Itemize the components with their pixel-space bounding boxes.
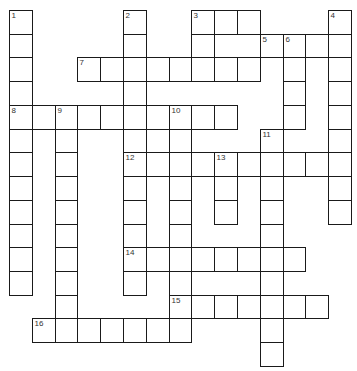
grid-cell[interactable] [214,10,238,35]
grid-cell[interactable]: 11 [260,129,284,153]
grid-cell[interactable] [328,176,352,201]
grid-cell[interactable] [260,224,284,248]
grid-cell[interactable] [260,295,284,319]
grid-cell[interactable] [260,200,284,225]
grid-cell[interactable]: 12 [123,152,147,177]
grid-cell[interactable] [237,10,261,35]
grid-cell[interactable] [9,57,33,82]
grid-cell[interactable]: 14 [123,247,147,272]
grid-cell[interactable] [328,152,352,177]
grid-cell[interactable]: 2 [123,10,147,35]
grid-cell[interactable] [9,34,33,58]
grid-cell[interactable]: 9 [55,105,78,130]
grid-cell[interactable] [283,81,306,106]
grid-cell[interactable] [100,105,124,130]
grid-cell[interactable] [55,200,78,225]
grid-cell[interactable] [146,152,170,177]
grid-cell[interactable]: 3 [191,10,215,35]
grid-cell[interactable] [123,318,147,343]
grid-cell[interactable] [305,34,329,58]
grid-cell[interactable] [260,176,284,201]
grid-cell[interactable] [123,176,147,201]
grid-cell[interactable]: 4 [328,10,352,35]
grid-cell[interactable] [9,176,33,201]
grid-cell[interactable] [260,342,284,367]
grid-cell[interactable] [283,152,306,177]
grid-cell[interactable] [123,271,147,296]
grid-cell[interactable] [328,105,352,130]
grid-cell[interactable] [55,129,78,153]
grid-cell[interactable] [123,57,147,82]
grid-cell[interactable] [55,295,78,319]
grid-cell[interactable] [9,247,33,272]
grid-cell[interactable] [283,105,306,130]
grid-cell[interactable]: 10 [169,105,192,130]
grid-cell[interactable]: 8 [9,105,33,130]
grid-cell[interactable] [9,224,33,248]
grid-cell[interactable] [55,176,78,201]
grid-cell[interactable] [55,271,78,296]
grid-cell[interactable] [237,152,261,177]
grid-cell[interactable] [328,34,352,58]
grid-cell[interactable] [237,295,261,319]
grid-cell[interactable] [9,81,33,106]
grid-cell[interactable]: 16 [32,318,56,343]
grid-cell[interactable] [100,318,124,343]
grid-cell[interactable] [123,200,147,225]
grid-cell[interactable] [77,105,101,130]
grid-cell[interactable] [55,152,78,177]
grid-cell[interactable] [146,247,170,272]
grid-cell[interactable] [77,318,101,343]
grid-cell[interactable] [55,247,78,272]
grid-cell[interactable] [260,271,284,296]
grid-cell[interactable] [9,200,33,225]
grid-cell[interactable] [328,81,352,106]
grid-cell[interactable]: 6 [283,34,306,58]
grid-cell[interactable] [260,247,284,272]
grid-cell[interactable] [169,200,192,225]
grid-cell[interactable] [146,105,170,130]
grid-cell[interactable] [283,295,306,319]
grid-cell[interactable] [123,105,147,130]
grid-cell[interactable] [9,129,33,153]
grid-cell[interactable] [214,105,238,130]
grid-cell[interactable] [169,318,192,343]
grid-cell[interactable] [169,176,192,201]
grid-cell[interactable]: 7 [77,57,101,82]
grid-cell[interactable] [123,129,147,153]
grid-cell[interactable] [191,57,215,82]
grid-cell[interactable] [123,81,147,106]
grid-cell[interactable] [305,152,329,177]
grid-cell[interactable] [100,57,124,82]
grid-cell[interactable] [305,295,329,319]
grid-cell[interactable] [283,57,306,82]
grid-cell[interactable]: 13 [214,152,238,177]
grid-cell[interactable] [55,318,78,343]
grid-cell[interactable] [123,34,147,58]
grid-cell[interactable] [169,129,192,153]
grid-cell[interactable] [169,247,192,272]
grid-cell[interactable] [146,318,170,343]
grid-cell[interactable] [328,129,352,153]
grid-cell[interactable] [55,224,78,248]
grid-cell[interactable] [328,200,352,225]
grid-cell[interactable] [237,57,261,82]
grid-cell[interactable] [191,34,215,58]
grid-cell[interactable] [214,200,238,225]
grid-cell[interactable] [9,152,33,177]
grid-cell[interactable] [123,224,147,248]
grid-cell[interactable]: 15 [169,295,192,319]
grid-cell[interactable] [260,152,284,177]
grid-cell[interactable] [237,247,261,272]
grid-cell[interactable] [191,295,215,319]
grid-cell[interactable] [169,152,192,177]
grid-cell[interactable] [146,57,170,82]
grid-cell[interactable] [169,57,192,82]
grid-cell[interactable] [214,57,238,82]
grid-cell[interactable] [169,224,192,248]
grid-cell[interactable] [328,57,352,82]
grid-cell[interactable] [169,271,192,296]
grid-cell[interactable] [214,295,238,319]
grid-cell[interactable] [214,176,238,201]
grid-cell[interactable] [32,105,56,130]
